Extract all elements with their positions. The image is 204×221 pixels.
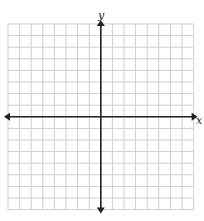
grid	[0, 0, 204, 221]
x-axis-arrow-left-icon	[4, 113, 10, 121]
y-axis-arrow-down-icon	[97, 208, 105, 214]
coordinate-plane: y x	[0, 0, 204, 221]
y-axis-label: y	[98, 10, 104, 21]
x-axis-label: x	[196, 115, 202, 126]
